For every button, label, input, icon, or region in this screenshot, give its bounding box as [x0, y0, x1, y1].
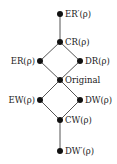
lattice-diagram: ER′(ρ)CR(ρ)ER(ρ)DR(ρ)OriginalEW(ρ)DW(ρ)C…: [0, 0, 117, 164]
edge-er-original: [40, 61, 60, 80]
node-original: [57, 77, 63, 83]
node-cw: [57, 117, 63, 123]
node-label-er: ER(ρ): [11, 56, 35, 66]
node-er-prime: [57, 11, 63, 17]
node-dr: [77, 58, 83, 64]
node-dw: [77, 97, 83, 103]
node-er: [37, 58, 43, 64]
node-label-dr: DR(ρ): [85, 56, 110, 66]
edge-original-ew: [40, 80, 60, 100]
node-label-er-prime: ER′(ρ): [65, 9, 91, 19]
node-dw-prime: [57, 148, 63, 154]
node-label-original: Original: [65, 75, 100, 85]
edge-ew-cw: [40, 100, 60, 120]
node-label-cw: CW(ρ): [65, 115, 92, 125]
edge-cr-er: [40, 42, 60, 61]
node-ew: [37, 97, 43, 103]
node-label-dw: DW(ρ): [85, 95, 112, 105]
node-label-cr: CR(ρ): [65, 37, 90, 47]
node-label-ew: EW(ρ): [8, 95, 35, 105]
node-cr: [57, 39, 63, 45]
node-label-dw-prime: DW′(ρ): [65, 146, 94, 156]
